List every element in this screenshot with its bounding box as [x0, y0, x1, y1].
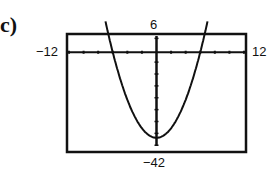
- axes: [69, 36, 244, 146]
- graph-plot: [0, 0, 280, 171]
